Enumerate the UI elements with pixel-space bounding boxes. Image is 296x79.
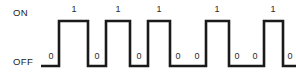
waveform-figure: ON OFF 11111 00000000: [0, 0, 296, 79]
bit-label-zero-4: 0: [194, 52, 199, 61]
square-wave-trace: [0, 0, 296, 79]
bit-label-zero-7: 0: [287, 52, 292, 61]
bit-label-zero-0: 0: [48, 52, 53, 61]
bit-label-one-0: 1: [71, 5, 76, 14]
bit-label-one-1: 1: [115, 5, 120, 14]
bit-label-one-4: 1: [270, 5, 275, 14]
bit-label-zero-2: 0: [136, 52, 141, 61]
waveform-path: [41, 21, 296, 66]
bit-label-one-3: 1: [214, 5, 219, 14]
bit-label-zero-5: 0: [234, 52, 239, 61]
bit-label-one-2: 1: [156, 5, 161, 14]
bit-label-zero-1: 0: [94, 52, 99, 61]
bit-label-zero-6: 0: [252, 52, 257, 61]
bit-label-zero-3: 0: [175, 52, 180, 61]
